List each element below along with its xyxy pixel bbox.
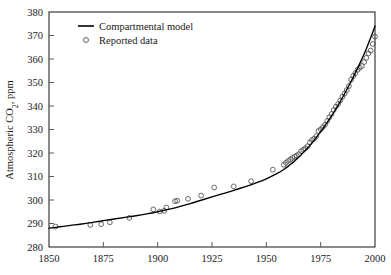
- data-point: [151, 207, 156, 212]
- x-axis-tick-labels: 1850187519001925195019752000: [39, 253, 386, 264]
- plot-frame: [49, 12, 375, 247]
- data-point: [212, 185, 217, 190]
- y-axis-title: Atmospheric CO2, ppm: [4, 80, 20, 179]
- y-tick-label-330: 330: [27, 124, 43, 135]
- data-point: [107, 220, 112, 225]
- y-tick-label-310: 310: [27, 171, 43, 182]
- chart-canvas: 280290300310320330340350360370380 185018…: [0, 0, 391, 275]
- legend-circle-swatch: [84, 38, 89, 43]
- data-point: [186, 196, 191, 201]
- y-tick-label-300: 300: [27, 195, 43, 206]
- chart-legend: Compartmental model Reported data: [78, 21, 193, 46]
- y-axis-tick-labels: 280290300310320330340350360370380: [27, 7, 43, 253]
- data-point: [99, 222, 104, 227]
- y-tick-label-380: 380: [27, 7, 43, 18]
- x-tick-label-1850: 1850: [39, 253, 60, 264]
- y-tick-label-350: 350: [27, 77, 43, 88]
- data-point: [231, 184, 236, 189]
- x-tick-label-1900: 1900: [147, 253, 168, 264]
- x-tick-label-1975: 1975: [310, 253, 331, 264]
- data-point: [364, 55, 369, 60]
- reported-data-markers: [53, 34, 377, 229]
- y-axis-ticks: [49, 36, 54, 224]
- x-tick-label-2000: 2000: [365, 253, 386, 264]
- x-axis-ticks: [103, 242, 320, 247]
- y-tick-label-340: 340: [27, 101, 43, 112]
- data-point: [270, 167, 275, 172]
- y-tick-label-360: 360: [27, 54, 43, 65]
- y-tick-label-290: 290: [27, 218, 43, 229]
- x-tick-label-1875: 1875: [93, 253, 114, 264]
- legend-label-reported-data: Reported data: [99, 35, 158, 46]
- legend-label-compartmental-model: Compartmental model: [99, 21, 193, 32]
- x-tick-label-1925: 1925: [202, 253, 223, 264]
- x-tick-label-1950: 1950: [256, 253, 277, 264]
- y-tick-label-280: 280: [27, 242, 43, 253]
- y-tick-label-370: 370: [27, 30, 43, 41]
- co2-chart-figure: 280290300310320330340350360370380 185018…: [0, 0, 391, 275]
- y-tick-label-320: 320: [27, 148, 43, 159]
- data-point: [249, 179, 254, 184]
- data-point: [199, 193, 204, 198]
